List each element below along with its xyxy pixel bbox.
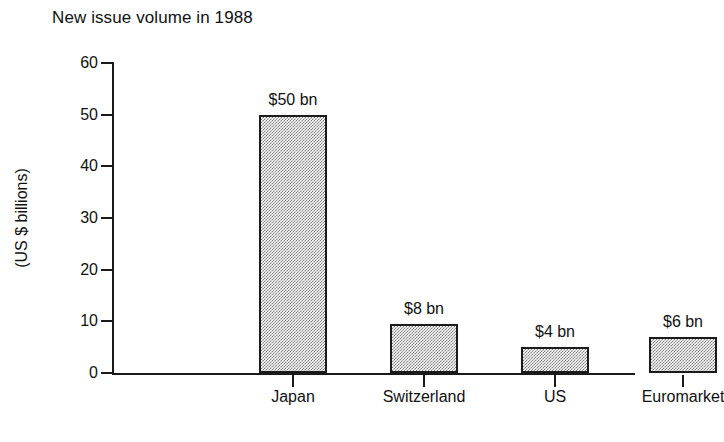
y-axis-tick-label: 0 (89, 365, 98, 381)
x-axis-line (112, 373, 635, 375)
y-axis-tick (101, 165, 112, 167)
y-axis-tick-label: 40 (80, 158, 98, 174)
x-axis-tick (682, 375, 684, 387)
x-axis-category-label: Japan (271, 389, 315, 405)
bar (521, 347, 589, 373)
y-axis-tick-label: 50 (80, 107, 98, 123)
y-axis-label: (US $ billions) (13, 168, 31, 268)
bar-value-label: $8 bn (404, 301, 444, 317)
plot-area: 0102030405060 $50 bn$8 bn$4 bn$6 bn Japa… (114, 63, 635, 373)
chart-title: New issue volume in 1988 (52, 8, 253, 28)
y-axis-tick (101, 217, 112, 219)
y-axis-tick (101, 269, 112, 271)
x-axis-category-label: Euromarket (642, 389, 724, 405)
y-axis-tick (101, 62, 112, 64)
bar-value-label: $6 bn (663, 314, 703, 330)
x-axis-category-label: Switzerland (383, 389, 466, 405)
y-axis-tick (101, 372, 112, 374)
bar (649, 337, 717, 373)
x-axis-category-label: US (544, 389, 566, 405)
bar (390, 324, 458, 373)
y-axis-tick-label: 10 (80, 313, 98, 329)
y-axis-line (112, 62, 114, 374)
bar-value-label: $4 bn (535, 324, 575, 340)
y-axis-tick (101, 114, 112, 116)
x-axis-tick (423, 375, 425, 387)
y-axis-tick-label: 30 (80, 210, 98, 226)
y-axis-tick (101, 320, 112, 322)
y-axis-tick-label: 60 (80, 55, 98, 71)
y-axis-tick-label: 20 (80, 262, 98, 278)
x-axis-tick (554, 375, 556, 387)
bar-value-label: $50 bn (269, 92, 318, 108)
bar (259, 115, 327, 373)
x-axis-tick (292, 375, 294, 387)
